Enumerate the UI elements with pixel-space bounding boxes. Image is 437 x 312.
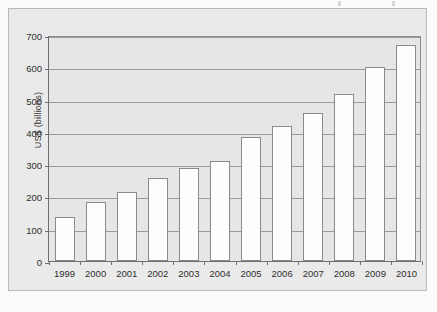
x-tick-mark	[298, 261, 299, 265]
bar	[303, 113, 323, 261]
x-tick-label: 1999	[54, 268, 75, 279]
bar	[148, 178, 168, 261]
gridline	[49, 166, 420, 167]
bar	[272, 126, 292, 261]
gridline	[49, 37, 420, 38]
x-tick-mark	[111, 261, 112, 265]
y-tick-mark	[45, 198, 49, 199]
y-tick-label: 300	[26, 160, 42, 171]
x-tick-label: 2005	[240, 268, 261, 279]
x-tick-mark	[391, 261, 392, 265]
y-tick-label: 500	[26, 96, 42, 107]
x-tick-mark	[142, 261, 143, 265]
bar	[365, 67, 385, 261]
x-tick-label: 2000	[85, 268, 106, 279]
y-tick-mark	[45, 166, 49, 167]
x-tick-mark	[267, 261, 268, 265]
x-tick-label: 2004	[209, 268, 230, 279]
x-tick-label: 2009	[365, 268, 386, 279]
y-tick-mark	[45, 102, 49, 103]
bar	[86, 202, 106, 261]
x-tick-mark	[80, 261, 81, 265]
x-tick-mark	[173, 261, 174, 265]
scan-speck	[392, 1, 395, 6]
scan-artifacts	[0, 0, 437, 8]
x-tick-mark	[329, 261, 330, 265]
x-tick-label: 2008	[334, 268, 355, 279]
gridline	[49, 102, 420, 103]
y-tick-mark	[45, 231, 49, 232]
bar	[334, 94, 354, 261]
x-tick-label: 2007	[303, 268, 324, 279]
x-tick-label: 2003	[178, 268, 199, 279]
scan-speck	[338, 1, 341, 6]
bar	[396, 45, 416, 261]
gridline	[49, 198, 420, 199]
x-tick-mark	[204, 261, 205, 265]
x-tick-mark	[360, 261, 361, 265]
x-tick-label: 2006	[272, 268, 293, 279]
x-tick-label: 2010	[396, 268, 417, 279]
gridline	[49, 134, 420, 135]
y-tick-mark	[45, 37, 49, 38]
x-tick-mark	[49, 261, 50, 265]
bar	[241, 137, 261, 261]
y-tick-label: 0	[37, 257, 42, 268]
bar	[117, 192, 137, 261]
y-axis-title: US$ (billions)	[33, 65, 43, 175]
gridline	[49, 69, 420, 70]
bar	[210, 161, 230, 261]
x-tick-label: 2002	[147, 268, 168, 279]
y-tick-label: 700	[26, 31, 42, 42]
chart-figure: US$ (billions) 0100200300400500600700 19…	[8, 8, 427, 291]
y-tick-mark	[45, 134, 49, 135]
chart-plot-wrapper: US$ (billions) 0100200300400500600700 19…	[9, 9, 428, 292]
bar	[55, 217, 75, 261]
y-tick-label: 400	[26, 128, 42, 139]
x-tick-label: 2001	[116, 268, 137, 279]
bar	[179, 168, 199, 261]
y-tick-label: 100	[26, 225, 42, 236]
y-tick-label: 200	[26, 192, 42, 203]
y-tick-mark	[45, 69, 49, 70]
y-tick-label: 600	[26, 63, 42, 74]
x-tick-mark	[236, 261, 237, 265]
x-tick-mark	[422, 261, 423, 265]
plot-area: 0100200300400500600700 19992000200120022…	[48, 36, 421, 262]
